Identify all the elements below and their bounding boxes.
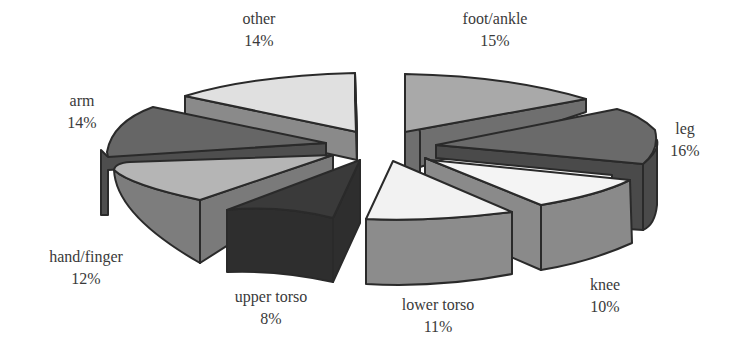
label-knee-pct: 10%	[590, 296, 620, 318]
label-hand-finger-name: hand/finger	[49, 246, 123, 268]
label-lower-torso: lower torso 11%	[402, 294, 474, 338]
label-foot-ankle-pct: 15%	[463, 30, 528, 52]
label-other: other 14%	[243, 8, 276, 52]
label-leg: leg 16%	[670, 118, 699, 162]
slice-lower-torso-side-front	[366, 212, 512, 285]
label-arm-pct: 14%	[67, 112, 96, 134]
label-other-name: other	[243, 8, 276, 30]
slice-upper-torso-side-front	[227, 209, 333, 282]
label-foot-ankle: foot/ankle 15%	[463, 8, 528, 52]
label-leg-name: leg	[670, 118, 699, 140]
pie-chart-3d	[0, 0, 740, 356]
label-lower-torso-name: lower torso	[402, 294, 474, 316]
label-upper-torso: upper torso 8%	[235, 286, 307, 330]
label-arm-name: arm	[67, 90, 96, 112]
label-leg-pct: 16%	[670, 140, 699, 162]
label-hand-finger: hand/finger 12%	[49, 246, 123, 290]
label-hand-finger-pct: 12%	[49, 268, 123, 290]
label-upper-torso-pct: 8%	[235, 308, 307, 330]
label-other-pct: 14%	[243, 30, 276, 52]
label-foot-ankle-name: foot/ankle	[463, 8, 528, 30]
label-lower-torso-pct: 11%	[402, 316, 474, 338]
label-knee: knee 10%	[590, 274, 620, 318]
label-upper-torso-name: upper torso	[235, 286, 307, 308]
label-arm: arm 14%	[67, 90, 96, 134]
label-knee-name: knee	[590, 274, 620, 296]
